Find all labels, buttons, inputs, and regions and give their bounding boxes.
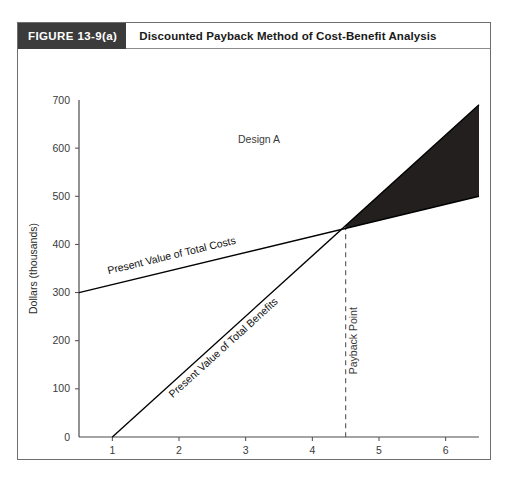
y-tick-label: 300: [52, 286, 70, 298]
figure-header: FIGURE 13-9(a) Discounted Payback Method…: [18, 23, 490, 49]
y-tick-label: 700: [52, 94, 70, 106]
y-axis-ticks: 0100200300400500600700: [52, 94, 79, 443]
payback-point-label: Payback Point: [347, 307, 359, 374]
y-tick-label: 600: [52, 142, 70, 154]
chart-plot-area: 0100200300400500600700 123456 Dollars (t…: [18, 49, 490, 459]
x-tick-label: 3: [243, 444, 249, 456]
y-tick-label: 500: [52, 190, 70, 202]
benefits-series-label: Present Value of Total Benefits: [166, 295, 280, 400]
figure-caption: Discounted Payback Method of Cost-Benefi…: [126, 23, 490, 49]
y-tick-label: 400: [52, 238, 70, 250]
x-axis-ticks: 123456: [109, 437, 448, 456]
y-tick-label: 200: [52, 334, 70, 346]
x-tick-label: 5: [376, 444, 382, 456]
y-tick-label: 100: [52, 382, 70, 394]
figure-number-tab: FIGURE 13-9(a): [18, 23, 126, 49]
x-tick-label: 2: [176, 444, 182, 456]
y-tick-label: 0: [64, 431, 70, 443]
x-tick-label: 1: [109, 444, 115, 456]
design-a-label: Design A: [238, 133, 280, 145]
present-value-total-costs-line: [79, 196, 479, 292]
x-tick-label: 6: [443, 444, 449, 456]
x-tick-label: 4: [309, 444, 315, 456]
cost-benefit-chart: 0100200300400500600700 123456 Dollars (t…: [18, 49, 490, 459]
y-axis-title: Dollars (thousands): [27, 223, 39, 314]
figure-frame: FIGURE 13-9(a) Discounted Payback Method…: [17, 22, 491, 460]
